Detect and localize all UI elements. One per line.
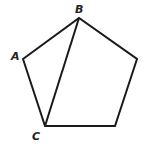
vertex-label-a: A xyxy=(10,50,20,63)
vertex-label-b: B xyxy=(75,3,83,16)
diagonal-bc xyxy=(45,18,79,126)
pentagon-diagram: A B C xyxy=(0,0,145,146)
pentagon-outline xyxy=(23,18,137,126)
vertex-label-c: C xyxy=(32,130,40,143)
